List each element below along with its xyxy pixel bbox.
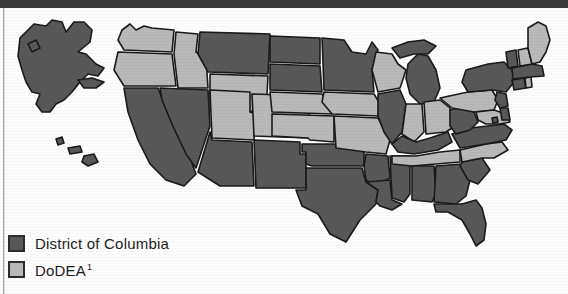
state-IA xyxy=(322,92,380,116)
state-SD xyxy=(270,64,322,92)
legend-footnote-marker: 1 xyxy=(87,262,92,272)
legend-item-dodea: DoDEA1 xyxy=(8,258,169,280)
us-map-container xyxy=(0,8,568,258)
legend-item-district-of-columbia: District of Columbia xyxy=(8,232,169,254)
legend-swatch-dark xyxy=(8,235,25,252)
state-IN xyxy=(402,104,424,142)
legend-label-dodea: DoDEA1 xyxy=(35,259,92,279)
us-choropleth-svg xyxy=(0,8,568,258)
state-KY xyxy=(392,132,452,154)
map-legend: District of Columbia DoDEA1 xyxy=(8,232,169,280)
legend-label-dodea-text: DoDEA xyxy=(35,262,86,279)
state-UT xyxy=(210,90,256,140)
state-HI xyxy=(56,137,64,145)
state-HI-2 xyxy=(68,146,82,154)
state-WA xyxy=(118,24,174,52)
state-HI-3 xyxy=(82,154,98,166)
scan-header-bar xyxy=(0,0,568,8)
state-MN xyxy=(322,38,378,92)
state-MT xyxy=(198,32,270,74)
legend-swatch-light xyxy=(8,261,25,278)
state-DE xyxy=(500,108,510,120)
state-CT xyxy=(512,78,526,90)
state-OR xyxy=(114,52,176,86)
state-MI xyxy=(406,54,440,104)
map-figure: District of Columbia DoDEA1 xyxy=(0,0,568,294)
state-RI xyxy=(525,77,532,88)
state-NJ xyxy=(495,92,508,108)
state-AL xyxy=(412,166,436,202)
state-ND xyxy=(270,36,320,64)
state-AK-aleutians xyxy=(78,78,104,88)
state-VT xyxy=(506,50,518,68)
legend-label-district-of-columbia: District of Columbia xyxy=(35,235,169,252)
state-MI-up xyxy=(392,40,436,58)
state-ME xyxy=(528,22,550,64)
state-NM xyxy=(254,140,306,188)
state-DC xyxy=(492,117,498,123)
state-AK xyxy=(18,20,104,112)
state-FL xyxy=(434,200,486,246)
